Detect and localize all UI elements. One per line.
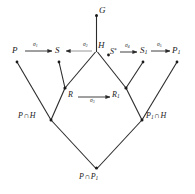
- node-label-R1: R1: [112, 91, 120, 100]
- node-dot-PcapH: [50, 119, 53, 122]
- node-dot-P1: [176, 61, 179, 64]
- node-dot-S1: [142, 61, 145, 64]
- node-dot-R: [63, 86, 66, 89]
- node-label-G: G: [99, 6, 106, 15]
- node-label-S-star: S*: [110, 48, 117, 56]
- arrow-label-sigma-1: σ1: [33, 42, 38, 49]
- edge-H-R1: [98, 52, 127, 88]
- edge-S-R: [59, 62, 65, 88]
- arrow-label-sigma-4: σ4: [125, 43, 130, 50]
- node-label-P-cap-P1: P∩P1: [79, 173, 98, 182]
- node-dot-R1: [124, 86, 127, 89]
- edge-H-R: [65, 52, 96, 88]
- node-label-P1: P1: [172, 46, 181, 55]
- node-dot-P: [16, 61, 19, 64]
- node-dot-G: [95, 14, 98, 17]
- node-label-P: P: [12, 46, 18, 55]
- arrow-label-sigma-5: σ5: [157, 42, 162, 49]
- node-label-S1: S1: [140, 46, 148, 55]
- node-dot-P1capH: [141, 119, 144, 122]
- edge-R1-P1capH: [126, 88, 142, 120]
- node-label-R: R: [68, 91, 73, 99]
- node-label-H: H: [98, 41, 105, 50]
- node-dot-PcapP1: [95, 166, 98, 169]
- edge-PcapH-bottom: [51, 120, 96, 168]
- node-label-P1-cap-H: P1∩H: [146, 112, 166, 121]
- arrow-label-sigma-2: σ2: [83, 42, 88, 49]
- arrow-label-sigma-3: σ3: [90, 98, 95, 105]
- diagram-canvas: [0, 0, 195, 194]
- node-label-P-cap-H: P∩H: [18, 112, 35, 120]
- edge-R-PcapP1: [51, 88, 65, 120]
- edge-P1capH-bottom: [98, 120, 143, 168]
- lattice-diagram: G P S H S* S1 P1 R R1 P∩H P1∩H P∩P1 σ1 σ…: [0, 0, 195, 194]
- edge-S1-R1: [126, 62, 143, 88]
- node-label-S: S: [55, 46, 60, 55]
- node-dot-S: [58, 61, 61, 64]
